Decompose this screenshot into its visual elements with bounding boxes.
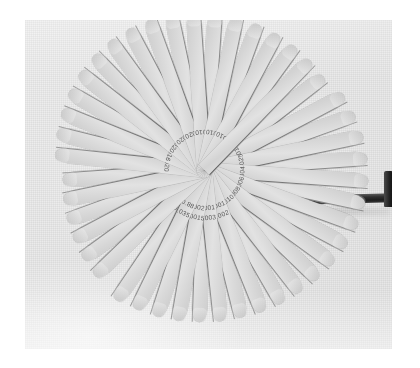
end-blade-tip bbox=[384, 171, 392, 207]
blade-rounded-tip bbox=[328, 89, 347, 109]
blade-rounded-tip bbox=[110, 284, 130, 304]
blade-rounded-tip bbox=[294, 55, 315, 75]
blade-rounded-tip bbox=[268, 287, 288, 307]
blade-rounded-tip bbox=[302, 264, 322, 285]
blade-rounded-tip bbox=[75, 67, 95, 87]
blade-rounded-tip bbox=[185, 20, 201, 27]
blade-rounded-tip bbox=[88, 50, 109, 70]
blade-rounded-tip bbox=[352, 151, 367, 167]
blade-rounded-tip bbox=[211, 306, 227, 321]
blade-rounded-tip bbox=[170, 306, 187, 322]
blade-rounded-tip bbox=[65, 86, 85, 106]
blade-rounded-tip bbox=[263, 31, 283, 50]
photograph: .0015.002.0025.003.004.005.006.007.008.0… bbox=[25, 20, 392, 349]
blade-rounded-tip bbox=[164, 20, 182, 30]
blade-rounded-tip bbox=[206, 20, 222, 28]
blade-rounded-tip bbox=[58, 105, 77, 124]
blade-rounded-tip bbox=[353, 173, 368, 189]
blade-rounded-tip bbox=[70, 226, 89, 246]
blade-rounded-tip bbox=[142, 20, 161, 35]
blade-rounded-tip bbox=[285, 276, 305, 296]
blade-rounded-tip bbox=[307, 71, 327, 91]
blade-rounded-tip bbox=[245, 22, 264, 40]
blade-rounded-tip bbox=[55, 126, 72, 144]
blade-rounded-tip bbox=[78, 244, 98, 264]
blade-rounded-tip bbox=[191, 308, 206, 323]
blade-rounded-tip bbox=[104, 36, 124, 56]
blade-rounded-tip bbox=[339, 108, 357, 127]
blade-rounded-tip bbox=[62, 171, 77, 187]
blade-rounded-tip bbox=[280, 42, 300, 62]
feeler-gauge-fan: .0015.002.0025.003.004.005.006.007.008.0… bbox=[25, 20, 392, 349]
blade-rounded-tip bbox=[317, 249, 337, 269]
blade-rounded-tip bbox=[249, 296, 268, 315]
blade-rounded-tip bbox=[62, 190, 79, 208]
blade-thickness-marking-secondary: .035 bbox=[176, 207, 191, 219]
blade-rounded-tip bbox=[330, 232, 349, 252]
blade-rounded-tip bbox=[89, 260, 109, 281]
blade-rounded-tip bbox=[122, 25, 142, 44]
image-canvas: .0015.002.0025.003.004.005.006.007.008.0… bbox=[0, 0, 420, 368]
blade-rounded-tip bbox=[54, 147, 69, 163]
blade-rounded-tip bbox=[129, 293, 149, 312]
blade-rounded-tip bbox=[341, 214, 359, 233]
